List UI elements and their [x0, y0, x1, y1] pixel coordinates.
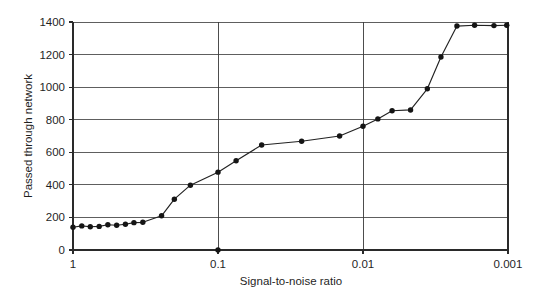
data-point-marker [79, 223, 84, 228]
data-point-marker [360, 124, 365, 129]
data-point-marker [105, 222, 110, 227]
y-tick-label: 1400 [39, 16, 65, 28]
data-point-marker [504, 23, 509, 28]
data-point-marker [188, 182, 193, 187]
data-point-marker [454, 23, 459, 28]
data-point-marker [70, 225, 75, 230]
chart-background [0, 0, 538, 296]
data-point-marker [123, 222, 128, 227]
data-point-marker [375, 116, 380, 121]
data-point-marker [472, 23, 477, 28]
data-point-marker [259, 142, 264, 147]
data-point-marker [159, 213, 164, 218]
y-tick-label: 0 [59, 244, 65, 256]
y-tick-label: 400 [46, 179, 65, 191]
data-point-marker [131, 220, 136, 225]
line-chart: 0200400600800100012001400 10.10.010.001 … [0, 0, 538, 296]
data-point-marker [114, 223, 119, 228]
data-point-marker [438, 54, 443, 59]
axis-artifact-markers [215, 247, 220, 252]
data-point-marker [408, 107, 413, 112]
y-tick-label: 1200 [39, 49, 65, 61]
data-point-marker [96, 224, 101, 229]
y-tick-label: 600 [46, 146, 65, 158]
x-tick-label: 0.001 [494, 258, 523, 270]
data-point-marker [140, 220, 145, 225]
x-tick-label: 0.1 [210, 258, 226, 270]
x-tick-label: 1 [70, 258, 76, 270]
y-tick-label: 800 [46, 114, 65, 126]
y-tick-label: 200 [46, 211, 65, 223]
data-point-marker [88, 224, 93, 229]
data-point-marker [299, 139, 304, 144]
data-point-marker [172, 196, 177, 201]
data-point-marker [389, 108, 394, 113]
data-point-marker [425, 86, 430, 91]
chart-container: 0200400600800100012001400 10.10.010.001 … [0, 0, 538, 296]
data-point-marker [233, 158, 238, 163]
data-point-marker [491, 23, 496, 28]
data-point-marker [215, 169, 220, 174]
y-axis-title: Passed through network [22, 74, 34, 198]
y-tick-label: 1000 [39, 81, 65, 93]
x-axis-title: Signal-to-noise ratio [240, 275, 342, 287]
x-tick-label: 0.01 [352, 258, 374, 270]
data-point-marker [337, 133, 342, 138]
axis-artifact-marker [215, 247, 220, 252]
